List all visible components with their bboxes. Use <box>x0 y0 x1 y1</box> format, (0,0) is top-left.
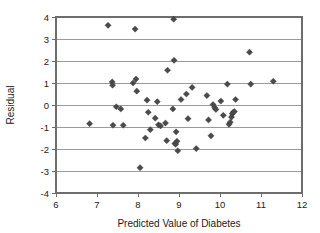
data-point-marker <box>220 112 226 118</box>
data-point-marker <box>142 135 148 141</box>
data-point-marker <box>178 96 184 102</box>
y-tick-label: -2 <box>41 144 49 155</box>
data-point-marker <box>246 49 252 55</box>
data-point-marker <box>248 81 254 87</box>
data-point-marker <box>232 96 238 102</box>
x-axis-title: Predicted Value of Diabetes <box>117 218 240 229</box>
data-point-marker <box>105 22 111 28</box>
chart-canvas: -4-3-2-1012346789101112 Predicted Value … <box>0 0 320 233</box>
y-tick-label: 0 <box>44 100 49 111</box>
data-point-marker <box>152 115 158 121</box>
data-point-marker <box>154 99 160 105</box>
data-point-marker <box>164 67 170 73</box>
data-point-marker <box>134 88 140 94</box>
data-point-marker <box>164 138 170 144</box>
data-point-marker <box>171 57 177 63</box>
tick-marks-group <box>52 17 302 197</box>
data-point-marker <box>193 145 199 151</box>
data-point-marker <box>204 92 210 98</box>
x-tick-label: 8 <box>135 199 140 210</box>
x-tick-label: 10 <box>215 199 226 210</box>
data-point-marker <box>185 116 191 122</box>
data-point-marker <box>218 98 224 104</box>
data-point-marker <box>205 117 211 123</box>
y-tick-label: 1 <box>44 78 49 89</box>
y-tick-label: 3 <box>44 34 49 45</box>
x-tick-label: 6 <box>53 199 58 210</box>
data-point-marker <box>173 129 179 135</box>
y-tick-label: -3 <box>41 166 49 177</box>
data-point-marker <box>145 109 151 115</box>
data-point-marker <box>87 121 93 127</box>
data-point-marker <box>132 26 138 32</box>
y-axis-title: Residual <box>5 86 16 125</box>
data-point-marker <box>183 91 189 97</box>
data-point-marker <box>170 106 176 112</box>
data-point-marker <box>162 120 168 126</box>
y-tick-label: 4 <box>44 12 49 23</box>
residual-scatter-chart: -4-3-2-1012346789101112 Predicted Value … <box>0 0 320 233</box>
y-tick-label: 2 <box>44 56 49 67</box>
data-point-marker <box>144 97 150 103</box>
y-tick-label: -4 <box>41 188 49 199</box>
x-tick-label: 7 <box>94 199 99 210</box>
x-tick-label: 9 <box>176 199 181 210</box>
data-point-marker <box>224 81 230 87</box>
data-point-marker <box>137 165 143 171</box>
x-tick-label: 11 <box>256 199 266 210</box>
data-point-marker <box>208 133 214 139</box>
y-tick-label: -1 <box>41 122 49 133</box>
x-tick-label: 12 <box>297 199 308 210</box>
data-point-marker <box>189 84 195 90</box>
